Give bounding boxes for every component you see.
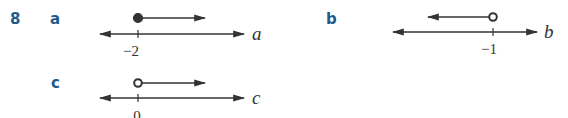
closed-dot-icon [134, 14, 143, 23]
number-line-a: −2 a [100, 14, 262, 60]
tick-label: −1 [481, 41, 497, 57]
tick-label: −2 [123, 43, 139, 59]
number-line-c: 0 c [100, 79, 261, 118]
variable-label: b [544, 21, 554, 42]
number-line-b: −1 b [393, 13, 554, 57]
variable-label: c [252, 87, 261, 108]
number-lines: −2 a −1 b 0 c [0, 0, 568, 118]
variable-label: a [252, 23, 262, 44]
tick-label: 0 [133, 108, 141, 118]
open-dot-icon [134, 79, 142, 87]
open-dot-icon [489, 13, 497, 21]
